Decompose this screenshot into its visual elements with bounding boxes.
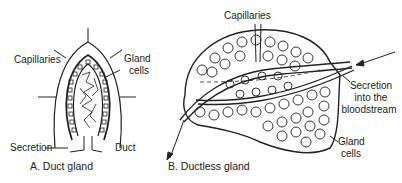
duct-gland-figure [38, 28, 136, 152]
ductless-gland-capillaries-label: Capillaries [224, 10, 271, 21]
ductless-gland-caption: B. Ductless gland [168, 160, 250, 172]
ductless-gland-secretion-label-line1: Secretion [340, 80, 402, 91]
duct-gland-gland-cells-label-line1: Gland [124, 53, 151, 64]
ductless-gland-secretion-label-line3: bloodstream [336, 104, 402, 115]
duct-gland-duct-label: Duct [115, 142, 136, 153]
duct-gland-secretion-label: Secretion [10, 142, 52, 153]
ductless-gland-secretion-label-line2: into the [340, 92, 402, 103]
duct-gland-capillaries-label: Capillaries [14, 54, 61, 65]
ductless-gland-gland-cells-label-line2: cells [341, 148, 361, 159]
duct-gland-gland-cells-label-line2: cells [129, 65, 149, 76]
ductless-gland-gland-cells-label-line1: Gland [338, 136, 365, 147]
duct-gland-caption: A. Duct gland [30, 160, 93, 172]
